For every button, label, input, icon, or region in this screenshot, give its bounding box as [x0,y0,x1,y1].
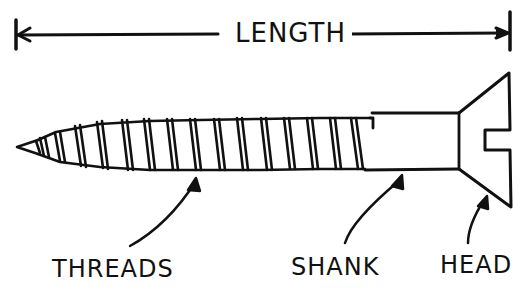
shank-pointer-arrow [345,175,403,243]
head-pointer-arrow [468,196,488,243]
shank-section [365,113,459,170]
head-section [459,73,511,207]
threads-pointer-arrow [130,178,200,246]
screw-diagram: LENGTH THREADS SHANK HEAD [0,0,530,295]
threads-label: THREADS [52,257,174,281]
shank-label: SHANK [291,255,379,279]
length-label: LENGTH [229,20,352,46]
head-label: HEAD [440,253,512,277]
threads-section [17,118,370,170]
